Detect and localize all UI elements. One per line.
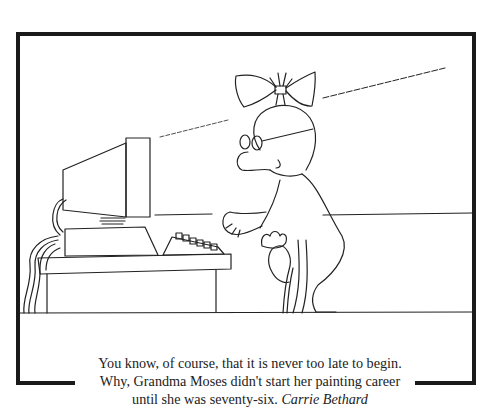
- caption-line-2: Why, Grandma Moses didn't start her pain…: [0, 372, 500, 390]
- cane: [262, 232, 293, 314]
- caption-author: Carrie Bethard: [281, 391, 368, 407]
- panel-frame: [18, 34, 474, 383]
- wall-line: [155, 214, 212, 215]
- computer-base: [65, 227, 158, 256]
- keyboard: [163, 233, 224, 255]
- caption: You know, of course, that it is never to…: [0, 354, 500, 408]
- cartoon-illustration: [0, 0, 500, 411]
- character-body: [223, 174, 344, 313]
- caption-line-1: You know, of course, that it is never to…: [0, 354, 500, 372]
- caption-line-3-text: until she was seventy-six.: [132, 391, 278, 407]
- caption-line-3: until she was seventy-six. Carrie Bethar…: [0, 390, 500, 408]
- floor-line: [20, 312, 472, 313]
- hair-bow: [235, 72, 315, 107]
- desk: [38, 254, 231, 313]
- wall-line-right: [323, 213, 472, 215]
- monitor: [53, 138, 150, 235]
- character-head: [237, 105, 315, 176]
- gaze-line-left: [160, 120, 228, 137]
- gaze-line-right: [323, 68, 445, 98]
